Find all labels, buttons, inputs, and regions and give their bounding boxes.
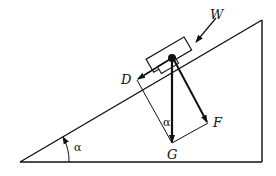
diagram-canvas xyxy=(0,0,276,176)
label-alpha-incline: α xyxy=(74,142,81,153)
incline-angle-arc xyxy=(63,137,69,162)
label-d: D xyxy=(121,73,131,86)
incline-triangle xyxy=(20,20,262,162)
center-of-mass-dot xyxy=(168,54,176,62)
label-w: W xyxy=(210,8,223,21)
label-g: G xyxy=(167,148,177,161)
label-alpha-force: α xyxy=(163,117,170,128)
force-f-arrow xyxy=(174,60,207,122)
label-f: F xyxy=(213,116,222,129)
